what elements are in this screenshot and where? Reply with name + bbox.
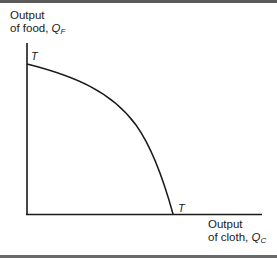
x-axis-label: Output of cloth, QC (208, 218, 266, 247)
ppf-curve (27, 64, 173, 214)
curve-label-bottom: T (178, 202, 185, 214)
curve-label-top: T (31, 50, 38, 62)
